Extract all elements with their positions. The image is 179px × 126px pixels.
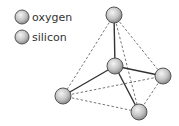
legend-oxygen-swatch-icon <box>15 10 29 24</box>
atom-oxygen-top <box>106 7 122 23</box>
atom-silicon-center <box>107 58 123 74</box>
atom-oxygen-right <box>155 68 171 84</box>
legend-silicon-swatch-icon <box>15 30 29 44</box>
atom-oxygen-left <box>55 88 71 104</box>
legend-oxygen-label: oxygen <box>32 11 72 24</box>
legend-silicon-label: silicon <box>32 31 67 44</box>
tetrahedron-diagram <box>0 0 179 126</box>
atom-oxygen-bottom <box>131 104 147 120</box>
